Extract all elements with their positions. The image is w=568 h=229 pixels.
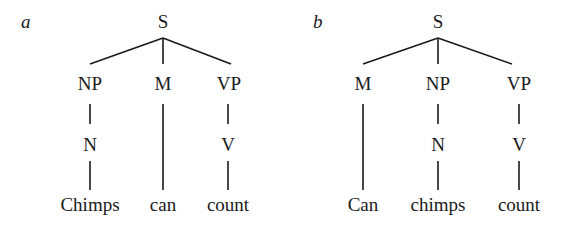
node-m: M xyxy=(355,74,372,93)
leaf-word: can xyxy=(150,195,176,214)
node-vp: VP xyxy=(507,74,531,93)
tree-tag: b xyxy=(313,12,323,31)
node-np: NP xyxy=(78,74,102,93)
node-n: N xyxy=(83,135,97,154)
tree-tag: a xyxy=(21,12,31,31)
node-v: V xyxy=(512,135,526,154)
node-np: NP xyxy=(426,74,450,93)
node-n: N xyxy=(431,135,445,154)
node-root: S xyxy=(433,12,444,31)
node-m: M xyxy=(155,74,172,93)
node-root: S xyxy=(158,12,169,31)
node-v: V xyxy=(221,135,235,154)
leaf-word: chimps xyxy=(411,195,466,214)
leaf-word: count xyxy=(207,195,249,214)
leaf-word: count xyxy=(498,195,540,214)
leaf-word: Chimps xyxy=(60,195,119,214)
leaf-word: Can xyxy=(348,195,379,214)
node-vp: VP xyxy=(217,74,241,93)
